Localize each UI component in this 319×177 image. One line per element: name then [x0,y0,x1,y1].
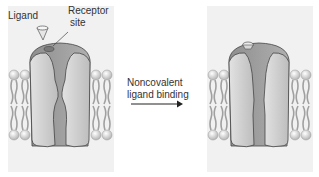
bound-ligand-icon [243,42,254,49]
receptor-site-label-line1: Receptor [68,5,109,16]
channel-protein-unbound [30,43,90,147]
receptor-site-label-line2: site [70,17,86,28]
receptor-site [44,47,54,52]
arrow-head-icon [177,101,183,108]
arrow-label-line1: Noncovalent [127,77,183,88]
ligand-icon [37,26,48,40]
arrow-label-line2: ligand binding [127,89,189,100]
channel-protein-bound [229,42,289,147]
ligand-label: Ligand [8,10,38,21]
